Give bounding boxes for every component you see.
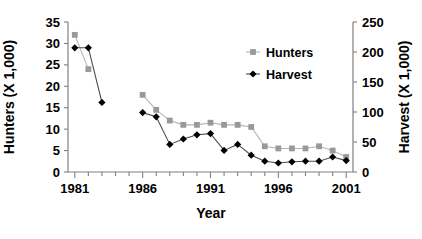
y-axis-title: Hunters (X 1,000) xyxy=(1,40,17,154)
x-axis-tick-label: 1996 xyxy=(264,181,293,196)
data-point-harvest xyxy=(166,141,173,148)
left-axis-tick-label: 0 xyxy=(53,165,60,180)
right-axis-tick-label: 0 xyxy=(362,165,369,180)
data-point-harvest xyxy=(180,135,187,142)
legend-marker-hunters xyxy=(250,49,256,55)
data-point-hunters xyxy=(221,122,227,128)
left-axis-tick-label: 20 xyxy=(46,79,60,94)
data-point-harvest xyxy=(261,158,268,165)
right-axis-tick-label: 50 xyxy=(362,135,376,150)
data-point-hunters xyxy=(235,122,241,128)
x-axis-tick-label: 1991 xyxy=(196,181,225,196)
data-point-hunters xyxy=(153,107,159,113)
right-axis-tick-label: 150 xyxy=(362,75,384,90)
series-line-harvest xyxy=(75,48,102,103)
data-point-harvest xyxy=(71,44,78,51)
data-point-hunters xyxy=(275,146,281,152)
left-axis-tick-label: 25 xyxy=(46,57,60,72)
data-point-hunters xyxy=(140,92,146,98)
data-point-harvest xyxy=(153,113,160,120)
x-axis-title: Year xyxy=(196,205,226,221)
data-point-hunters xyxy=(85,66,91,72)
data-point-harvest xyxy=(302,158,309,165)
left-axis-tick-label: 5 xyxy=(53,143,60,158)
series-line-harvest xyxy=(143,113,347,163)
data-point-harvest xyxy=(193,131,200,138)
data-point-harvest xyxy=(288,158,295,165)
hunters-harvest-line-chart: 0510152025303505010015020025019811986199… xyxy=(0,0,422,239)
data-point-harvest xyxy=(315,158,322,165)
data-point-hunters xyxy=(330,148,336,154)
data-point-harvest xyxy=(85,44,92,51)
data-point-hunters xyxy=(72,32,78,38)
series-line-hunters xyxy=(75,35,89,69)
x-axis-tick-label: 1981 xyxy=(60,181,89,196)
right-axis-tick-label: 200 xyxy=(362,45,384,60)
data-point-hunters xyxy=(180,122,186,128)
data-point-hunters xyxy=(194,122,200,128)
left-axis-tick-label: 35 xyxy=(46,15,60,30)
y2-axis-title: Harvest (X 1,000) xyxy=(396,41,412,154)
legend-marker-harvest xyxy=(249,70,256,77)
data-point-harvest xyxy=(275,159,282,166)
data-point-hunters xyxy=(167,118,173,124)
legend-label-harvest: Harvest xyxy=(266,68,313,82)
data-point-harvest xyxy=(139,109,146,116)
data-point-hunters xyxy=(248,124,254,130)
x-axis-tick-label: 1986 xyxy=(128,181,157,196)
left-axis-tick-label: 15 xyxy=(46,100,60,115)
right-axis-tick-label: 250 xyxy=(362,15,384,30)
data-point-hunters xyxy=(262,143,268,149)
data-point-hunters xyxy=(303,146,309,152)
left-axis-tick-label: 30 xyxy=(46,36,60,51)
x-axis-tick-label: 2001 xyxy=(332,181,361,196)
data-point-harvest xyxy=(98,99,105,106)
chart-container: 0510152025303505010015020025019811986199… xyxy=(0,0,422,239)
data-point-harvest xyxy=(329,153,336,160)
right-axis-tick-label: 100 xyxy=(362,105,384,120)
data-point-hunters xyxy=(316,143,322,149)
left-axis-tick-label: 10 xyxy=(46,122,60,137)
data-point-hunters xyxy=(208,120,214,126)
legend-label-hunters: Hunters xyxy=(266,46,313,60)
legend: HuntersHarvest xyxy=(246,46,313,82)
series-line-hunters xyxy=(143,95,347,157)
data-point-hunters xyxy=(289,146,295,152)
